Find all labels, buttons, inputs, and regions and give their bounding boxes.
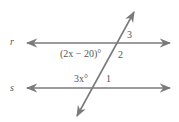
label-angle-2: 2: [118, 50, 123, 60]
label-line-r: r: [10, 37, 14, 47]
label-angle-2x-minus-20: (2x − 20)°: [60, 49, 101, 59]
label-angle-3: 3: [127, 30, 132, 40]
transversal: [77, 12, 134, 116]
label-angle-1: 1: [106, 74, 111, 84]
label-angle-3x: 3x°: [74, 74, 88, 84]
label-line-s: s: [10, 83, 14, 93]
parallel-lines-diagram: [0, 0, 179, 122]
